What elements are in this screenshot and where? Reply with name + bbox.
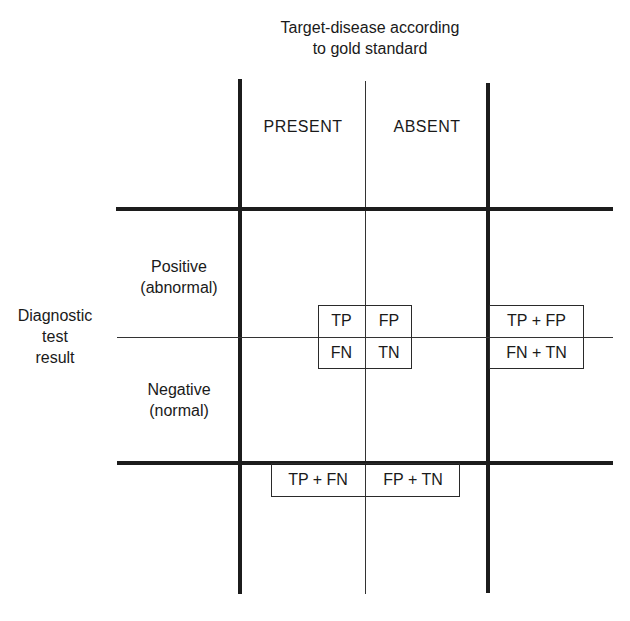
row-header-title-line2: test bbox=[0, 326, 110, 347]
column-total-absent: FP + TN bbox=[366, 465, 460, 495]
row-total-negative: FN + TN bbox=[489, 338, 584, 368]
row-label-positive-line1: Positive bbox=[118, 256, 240, 277]
column-header-title-line2: to gold standard bbox=[260, 38, 480, 59]
column-total-present: TP + FN bbox=[271, 465, 365, 495]
column-header-title-line1: Target-disease according bbox=[260, 17, 480, 38]
row-header-title-line3: result bbox=[0, 347, 110, 368]
row-label-positive-line2: (abnormal) bbox=[118, 277, 240, 298]
row-label-negative-line1: Negative bbox=[118, 379, 240, 400]
cell-true-negative: TN bbox=[366, 338, 412, 368]
cell-true-positive: TP bbox=[318, 306, 365, 336]
row-header-title-line1: Diagnostic bbox=[0, 305, 110, 326]
row-total-positive: TP + FP bbox=[489, 306, 584, 336]
row-label-negative-line2: (normal) bbox=[118, 400, 240, 421]
top-horizontal-rule bbox=[116, 207, 613, 211]
column-label-absent: ABSENT bbox=[366, 116, 488, 137]
column-label-present: PRESENT bbox=[242, 116, 364, 137]
cell-false-positive: FP bbox=[366, 306, 412, 336]
cell-false-negative: FN bbox=[318, 338, 365, 368]
